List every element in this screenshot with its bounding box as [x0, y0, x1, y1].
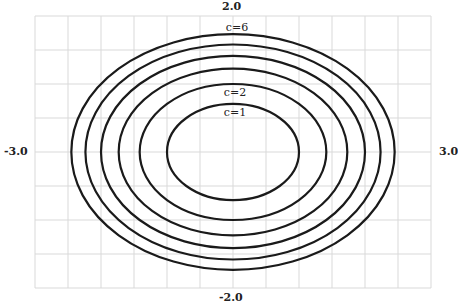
tick-label-left: -3.0: [4, 145, 28, 158]
curve-label-c1: c=1: [224, 106, 246, 119]
tick-label-right: 3.0: [439, 145, 458, 158]
tick-label-bottom: -2.0: [219, 291, 243, 304]
tick-label-top: 2.0: [222, 0, 241, 13]
curve-label-c2: c=2: [224, 86, 246, 99]
curve-label-c6: c=6: [226, 21, 248, 34]
